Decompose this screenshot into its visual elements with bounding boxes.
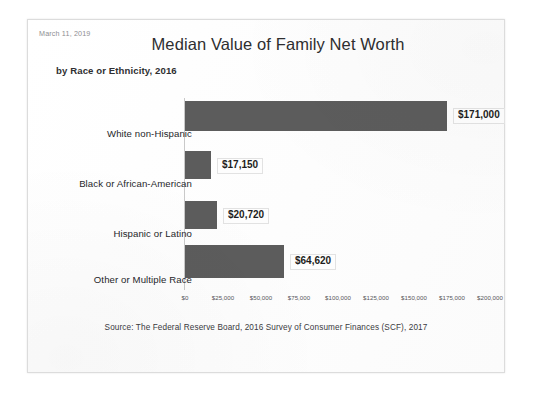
bar-hispanic-or-latino	[185, 201, 217, 229]
value-label-1: $17,150	[217, 158, 263, 174]
bar-chart-plot: White non-Hispanic Black or African-Amer…	[28, 20, 506, 374]
category-label-2: Hispanic or Latino	[22, 228, 192, 239]
value-label-2: $20,720	[223, 208, 269, 224]
value-label-0: $171,000	[453, 108, 505, 124]
category-label-0: White non-Hispanic	[22, 128, 192, 139]
xtick-label-6: $150,000	[401, 294, 427, 301]
bar-black-or-african-american	[185, 151, 211, 179]
xtick-label-4: $100,000	[325, 294, 351, 301]
bar-other-or-multiple-race	[185, 245, 284, 278]
xtick-label-1: $25,000	[212, 294, 234, 301]
value-label-3: $64,620	[290, 254, 336, 270]
xtick-label-5: $125,000	[363, 294, 389, 301]
bar-white-non-hispanic	[185, 101, 447, 131]
category-label-1: Black or African-American	[22, 178, 192, 189]
source-note: Source: The Federal Reserve Board, 2016 …	[28, 323, 504, 332]
xtick-label-2: $50,000	[250, 294, 272, 301]
xtick-label-3: $75,000	[288, 294, 310, 301]
xtick-label-8: $200,000	[477, 294, 503, 301]
xtick-label-7: $175,000	[439, 294, 465, 301]
scanned-page: March 11, 2019 Median Value of Family Ne…	[27, 19, 505, 373]
xtick-label-0: $0	[182, 294, 189, 301]
category-label-3: Other or Multiple Race	[22, 274, 192, 285]
